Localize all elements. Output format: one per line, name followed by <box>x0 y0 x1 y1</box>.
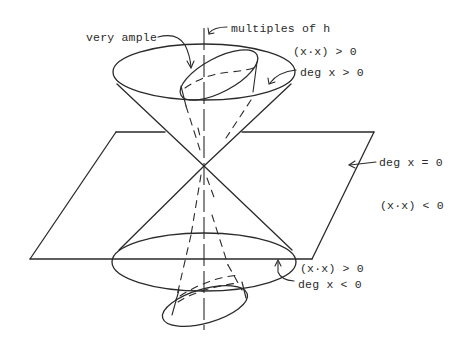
upper-region-arrow <box>270 70 296 83</box>
degree-zero-plane <box>30 132 374 259</box>
label-very-ample: very ample <box>86 32 157 44</box>
label-plane-degree: deg x = 0 <box>379 157 443 169</box>
very-ample-arrow <box>158 36 191 67</box>
plane-arrow <box>350 162 376 165</box>
very-ample-cone <box>173 40 265 150</box>
lower-cone-right-edge <box>204 166 292 250</box>
label-upper-positive: (x·x) > 0 <box>293 46 357 58</box>
label-lower-positive: (x·x) > 0 <box>300 263 364 275</box>
label-outside-negative: (x·x) < 0 <box>380 200 444 212</box>
label-upper-degree: deg x > 0 <box>300 67 364 79</box>
label-multiples-of-h: multiples of h <box>231 23 330 35</box>
label-lower-degree: deg x < 0 <box>298 279 362 291</box>
lower-inner-cone-rim <box>158 278 252 335</box>
multiples-arrow <box>209 27 227 33</box>
light-cone-diagram <box>0 0 461 346</box>
lower-cone-left-edge <box>119 166 204 250</box>
